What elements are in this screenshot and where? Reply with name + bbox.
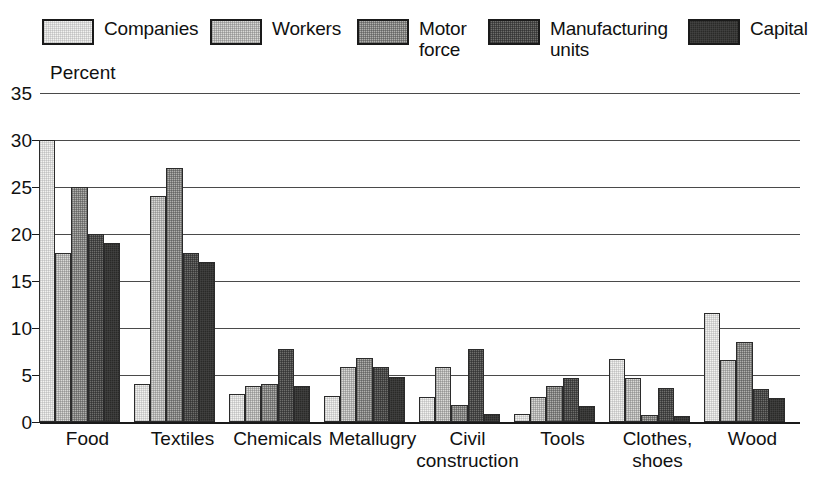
bar	[546, 386, 562, 422]
bar	[514, 414, 530, 422]
legend-swatch-workers	[210, 19, 262, 45]
chart-figure: Companies Workers Motor force Manufactur…	[0, 0, 835, 492]
legend-label-manufacturing-units: Manufacturing units	[550, 18, 668, 60]
bar	[134, 384, 150, 422]
bar	[579, 406, 595, 422]
bar	[484, 414, 500, 422]
bar	[294, 386, 310, 422]
bar	[674, 416, 690, 422]
legend-swatch-companies	[42, 19, 94, 45]
x-axis-baseline	[40, 422, 800, 424]
bar-group	[609, 93, 690, 422]
bar	[229, 394, 245, 422]
bar-group	[704, 93, 785, 422]
x-axis-tick-labels: FoodTextilesChemicalsMetallugryCivil con…	[40, 428, 800, 488]
legend-swatch-capital	[688, 19, 740, 45]
bar	[104, 243, 120, 422]
legend-item-manufacturing-units: Manufacturing units	[488, 18, 668, 60]
legend-swatch-manufacturing-units	[488, 19, 540, 45]
bar	[609, 359, 625, 422]
bar	[71, 187, 87, 422]
bar	[245, 386, 261, 422]
legend-label-workers: Workers	[272, 18, 341, 39]
legend-item-capital: Capital	[688, 18, 808, 45]
bar	[704, 313, 720, 422]
bar-group	[514, 93, 595, 422]
plot-area	[40, 93, 800, 422]
bar-group	[39, 93, 120, 422]
legend-item-workers: Workers	[210, 18, 341, 45]
bar	[468, 349, 484, 422]
bar-group	[134, 93, 215, 422]
legend-item-motor-force: Motor force	[357, 18, 467, 60]
bar-group	[229, 93, 310, 422]
bar	[373, 367, 389, 422]
legend-label-companies: Companies	[104, 18, 198, 39]
chart-legend: Companies Workers Motor force Manufactur…	[0, 8, 835, 70]
x-axis-label: Wood	[691, 428, 814, 450]
y-axis-tick-labels: 05101520253035	[0, 93, 40, 433]
bar-group	[324, 93, 405, 422]
bar	[720, 360, 736, 422]
legend-label-motor-force: Motor force	[419, 18, 467, 60]
bar	[736, 342, 752, 422]
bar	[166, 168, 182, 422]
y-axis-tick-label-5: 5	[0, 366, 32, 385]
bar	[88, 234, 104, 422]
bar	[625, 378, 641, 422]
y-axis-unit-label: Percent	[50, 62, 115, 84]
bar	[641, 415, 657, 422]
bar-group	[419, 93, 500, 422]
bar	[389, 377, 405, 422]
legend-item-companies: Companies	[42, 18, 198, 45]
legend-swatch-motor-force	[357, 19, 409, 45]
y-axis-tick-label-20: 20	[0, 225, 32, 244]
bar	[451, 405, 467, 422]
y-axis-tick-label-15: 15	[0, 272, 32, 291]
y-axis-tick-label-30: 30	[0, 131, 32, 150]
y-axis-tick-0	[32, 422, 40, 423]
bar	[261, 384, 277, 422]
bar	[563, 378, 579, 422]
bar	[658, 388, 674, 422]
bar	[753, 389, 769, 422]
bar	[278, 349, 294, 422]
y-axis-tick-label-35: 35	[0, 84, 32, 103]
bar	[39, 140, 55, 422]
bar	[183, 253, 199, 422]
y-axis-tick-label-25: 25	[0, 178, 32, 197]
bar	[55, 253, 71, 422]
bar	[356, 358, 372, 422]
bar	[150, 196, 166, 422]
bar	[199, 262, 215, 422]
bar	[530, 397, 546, 422]
y-axis-tick-label-10: 10	[0, 319, 32, 338]
bar	[769, 398, 785, 422]
bar	[324, 396, 340, 422]
legend-label-capital: Capital	[750, 18, 808, 39]
bar	[340, 367, 356, 422]
bar	[435, 367, 451, 422]
bar	[419, 397, 435, 422]
